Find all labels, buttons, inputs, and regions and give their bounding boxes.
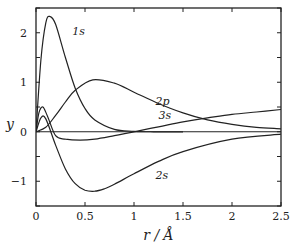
x-tick-label: 0.5 xyxy=(76,210,94,223)
labels: 00.511.522.5−1012r / Åy1s2p3s2s xyxy=(5,25,290,243)
curve-label-2s: 2s xyxy=(155,169,169,182)
curve-label-1s: 1s xyxy=(72,25,85,38)
y-tick-label: −1 xyxy=(11,175,27,188)
y-tick-label: 0 xyxy=(20,126,27,139)
y-axis-label: y xyxy=(5,116,15,132)
curve-label-3s: 3s xyxy=(159,109,172,122)
y-tick-label: 2 xyxy=(20,27,27,40)
curve-label-2p: 2p xyxy=(155,95,170,108)
x-tick-label: 2.5 xyxy=(272,210,290,223)
y-tick-label: 1 xyxy=(20,76,27,89)
x-tick-label: 1.5 xyxy=(174,210,192,223)
x-tick-label: 1 xyxy=(131,210,138,223)
radial-function-chart: 00.511.522.5−1012r / Åy1s2p3s2s xyxy=(0,0,291,247)
x-tick-label: 2 xyxy=(229,210,236,223)
x-tick-label: 0 xyxy=(33,210,40,223)
x-axis-label: r / Å xyxy=(143,226,173,243)
